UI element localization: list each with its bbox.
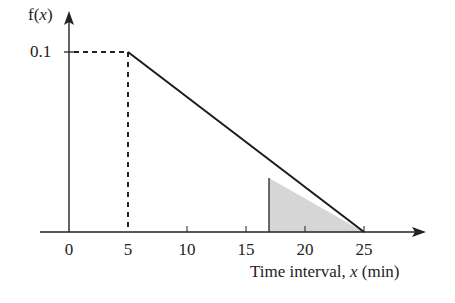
density-line bbox=[128, 52, 364, 232]
x-tick-label: 5 bbox=[124, 240, 133, 260]
x-tick-label: 15 bbox=[238, 240, 255, 260]
x-tick-label: 10 bbox=[179, 240, 196, 260]
y-axis-label: f(x) bbox=[28, 5, 53, 25]
y-tick-label: 0.1 bbox=[30, 42, 51, 62]
x-tick-label: 20 bbox=[297, 240, 314, 260]
shaded-probability-region bbox=[269, 178, 364, 232]
x-tick-label: 25 bbox=[356, 240, 373, 260]
x-tick-label: 0 bbox=[65, 240, 74, 260]
x-axis-label: Time interval, x (min) bbox=[250, 262, 400, 282]
